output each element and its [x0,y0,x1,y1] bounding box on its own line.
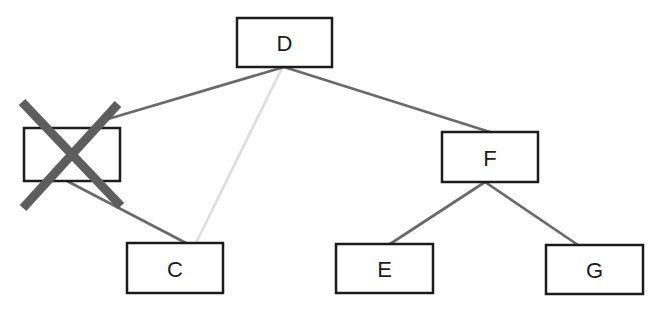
node-E-label: E [377,257,392,282]
node-C-label: C [167,257,183,282]
node-F-label: F [483,146,496,171]
tree-diagram: DCFEG [0,0,665,309]
edge-D-deleted [108,67,284,119]
edge-D-C [196,68,282,243]
node-G-label: G [586,258,603,283]
edge-F-G [485,182,578,245]
edge-deleted-C [67,181,186,243]
edge-D-F [284,67,490,132]
edge-F-E [390,182,485,244]
tree-diagram-stage: DCFEG [0,0,665,309]
node-D-label: D [277,31,293,56]
